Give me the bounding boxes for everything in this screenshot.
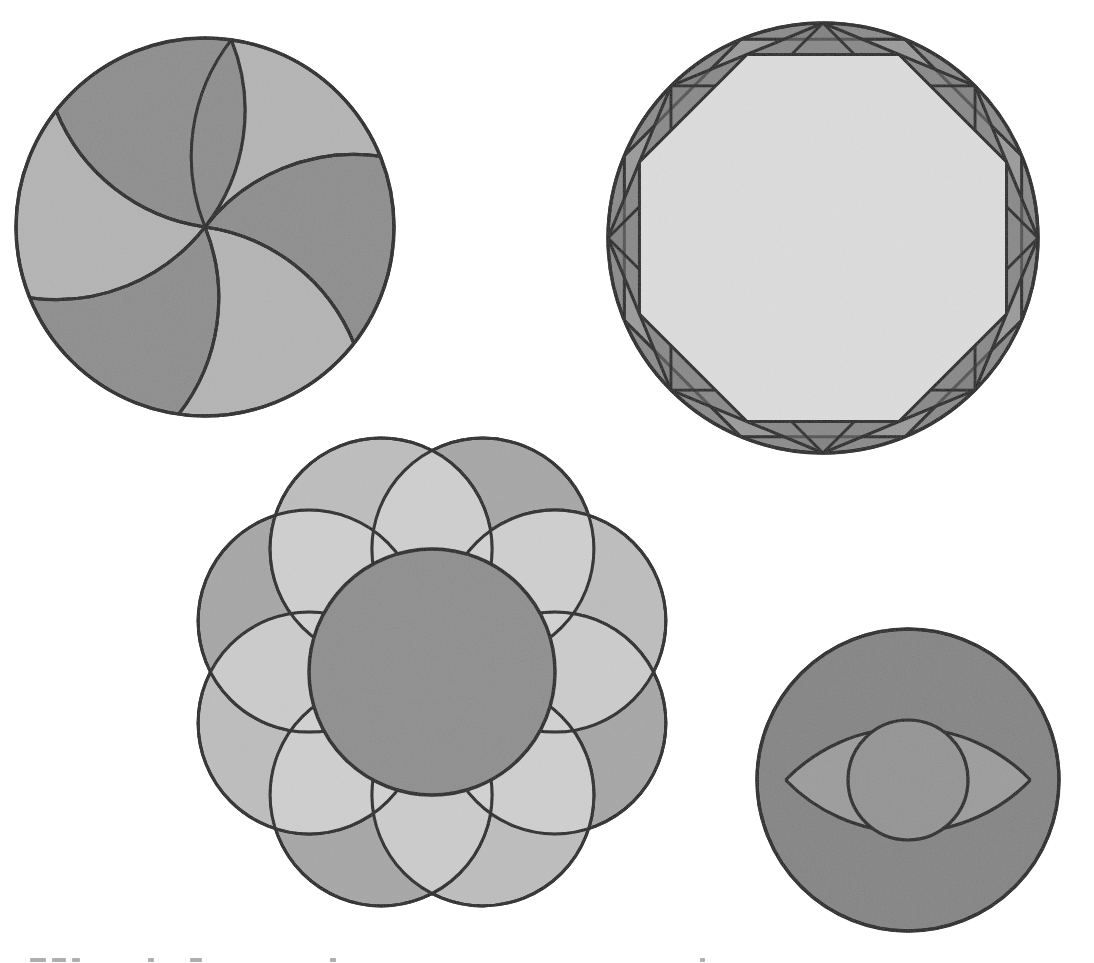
figure-flower-of-life bbox=[198, 438, 666, 906]
flower-central-circle bbox=[309, 549, 555, 795]
figure-two-arc-lens bbox=[757, 629, 1059, 931]
figure-six-petal-rosette bbox=[16, 38, 394, 416]
octagon-inner-light bbox=[639, 54, 1006, 421]
figure-page bbox=[0, 0, 1094, 963]
geometry-figure-canvas bbox=[0, 0, 1094, 963]
lens-inner-circle bbox=[848, 720, 968, 840]
figure-octagram-in-circle bbox=[608, 23, 1038, 453]
